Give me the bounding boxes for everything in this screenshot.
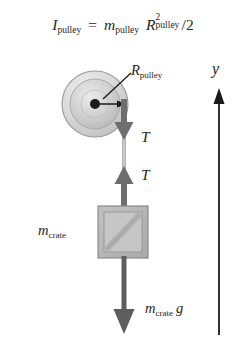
y-axis-label: y: [212, 60, 219, 78]
physics-diagram-canvas: Ipulley=mpulleyR2pulley/2: [0, 0, 246, 347]
free-body-diagram-graphics: [0, 0, 246, 347]
tension-label-upper: T: [141, 128, 150, 146]
crate-mass-symbol: m: [38, 222, 48, 238]
weight-arrow: [114, 256, 135, 334]
tension-label-lower: T: [141, 166, 150, 184]
radius-label-subscript: pulley: [140, 70, 163, 80]
y-axis-arrow: [214, 88, 225, 335]
crate-box: [98, 206, 148, 258]
radius-label-symbol: R: [131, 62, 140, 78]
crate-mass-subscript: crate: [48, 230, 65, 240]
weight-gravity-symbol: g: [176, 300, 183, 316]
radius-label: Rpulley: [131, 62, 162, 80]
tension-arrow-lower: [115, 166, 134, 208]
crate-mass-label: mcrate: [38, 222, 66, 240]
weight-label: mcrateg: [145, 300, 183, 318]
weight-mass-subscript: crate: [155, 308, 172, 318]
weight-mass-symbol: m: [145, 300, 155, 316]
